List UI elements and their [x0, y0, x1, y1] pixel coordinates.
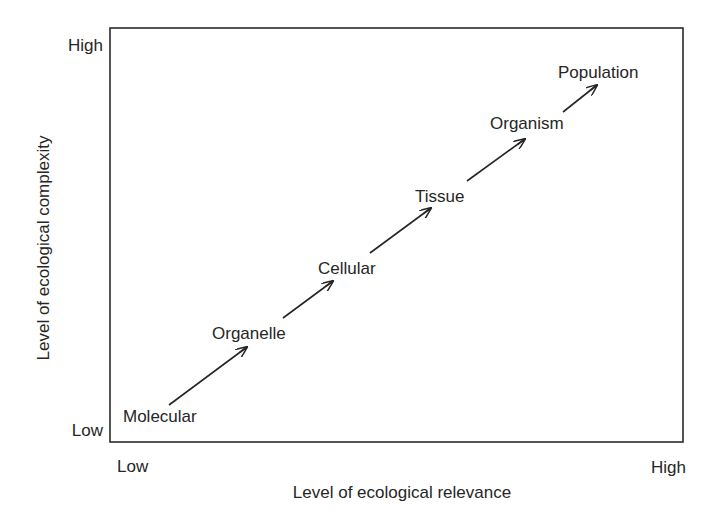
y-axis-low-label: Low [72, 421, 104, 440]
arrow-molecular-to-organelle-icon [169, 347, 247, 405]
level-tissue: Tissue [415, 187, 464, 206]
level-cellular: Cellular [318, 259, 376, 278]
x-axis-title: Level of ecological relevance [293, 483, 511, 502]
plot-frame [110, 28, 683, 442]
arrow-cellular-to-tissue-icon [370, 208, 431, 253]
level-organelle: Organelle [212, 324, 286, 343]
y-axis-title: Level of ecological complexity [34, 135, 53, 360]
ecological-levels-diagram: High Low Level of ecological complexity … [0, 0, 718, 519]
x-axis-high-label: High [651, 458, 686, 477]
x-axis-low-label: Low [117, 457, 149, 476]
y-axis-high-label: High [68, 36, 103, 55]
arrow-tissue-to-organism-icon [467, 139, 525, 181]
arrow-organism-to-population-icon [563, 85, 597, 112]
level-population: Population [558, 63, 638, 82]
arrow-organelle-to-cellular-icon [283, 281, 333, 318]
level-organism: Organism [490, 114, 564, 133]
level-molecular: Molecular [123, 407, 197, 426]
progression-arrows [169, 85, 597, 405]
